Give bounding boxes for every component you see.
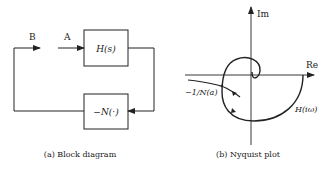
nyquist-plot: Im Re −1/N(a) H(iω) (b) Nyquist plot bbox=[185, 7, 318, 159]
feedback-block-label: −N(·) bbox=[93, 107, 119, 117]
caption-b: (b) Nyquist plot bbox=[216, 150, 281, 159]
forward-block-label: H(s) bbox=[95, 44, 116, 54]
intersection-point bbox=[221, 85, 224, 88]
curve-label: H(iω) bbox=[294, 105, 317, 114]
feedback-return-line bbox=[14, 48, 84, 111]
figure: B A H(s) −N(·) (a) Block diagram Im Re −… bbox=[0, 0, 331, 169]
describing-function-label: −1/N(a) bbox=[185, 88, 218, 97]
block-diagram: B A H(s) −N(·) (a) Block diagram bbox=[14, 30, 154, 159]
re-axis-label: Re bbox=[306, 60, 318, 70]
signal-a-label: A bbox=[63, 32, 71, 42]
describing-function-arrow bbox=[232, 91, 237, 96]
im-axis-label: Im bbox=[257, 9, 270, 19]
curve-direction-arrow bbox=[231, 108, 236, 113]
output-line bbox=[128, 48, 154, 111]
caption-a: (a) Block diagram bbox=[44, 150, 117, 159]
signal-b-label: B bbox=[29, 32, 36, 42]
